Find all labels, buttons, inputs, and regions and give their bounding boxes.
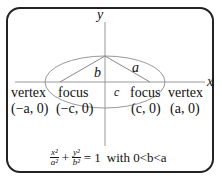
focus-left-coord: (−c, 0) <box>56 102 93 116</box>
b-label: b <box>94 66 101 80</box>
vertex-left-label: vertex <box>11 86 46 100</box>
equation-condition: with 0<b<a <box>107 150 167 166</box>
x-fraction: x² a² <box>50 148 59 167</box>
vertex-left-coord: (−a, 0) <box>11 102 48 116</box>
x-axis-label: x <box>207 75 213 89</box>
segment-a <box>105 56 150 82</box>
y-fraction: y² b² <box>72 148 81 167</box>
vertex-right-label: vertex <box>168 86 203 100</box>
a-label: a <box>132 61 139 75</box>
c-label: c <box>114 86 119 98</box>
ellipse-equation: x² a² + y² b² = 1 with 0<b<a <box>50 148 167 167</box>
focus-right-label: focus <box>130 86 160 100</box>
focus-right-coord: (c, 0) <box>131 102 161 116</box>
vertex-right-coord: (a, 0) <box>170 102 200 116</box>
y-axis-label: y <box>97 8 103 22</box>
focus-left-label: focus <box>58 86 88 100</box>
